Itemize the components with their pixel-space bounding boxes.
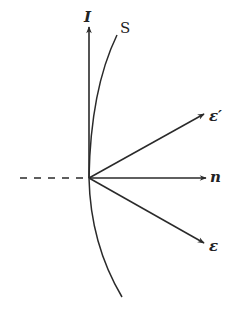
vector-eps-prime-arrow bbox=[89, 114, 204, 178]
surface-label-S: S bbox=[120, 19, 130, 37]
vector-eps-arrow bbox=[89, 178, 204, 243]
normal-n-label: n bbox=[210, 168, 221, 186]
surface-curve-upper bbox=[89, 35, 117, 178]
reflection-diagram: I S n ε′ ε bbox=[0, 0, 246, 322]
surface-curve-lower bbox=[89, 178, 122, 297]
vector-eps-label: ε bbox=[209, 237, 218, 255]
axis-I-label: I bbox=[83, 8, 92, 26]
vector-eps-prime-label: ε′ bbox=[209, 107, 222, 125]
